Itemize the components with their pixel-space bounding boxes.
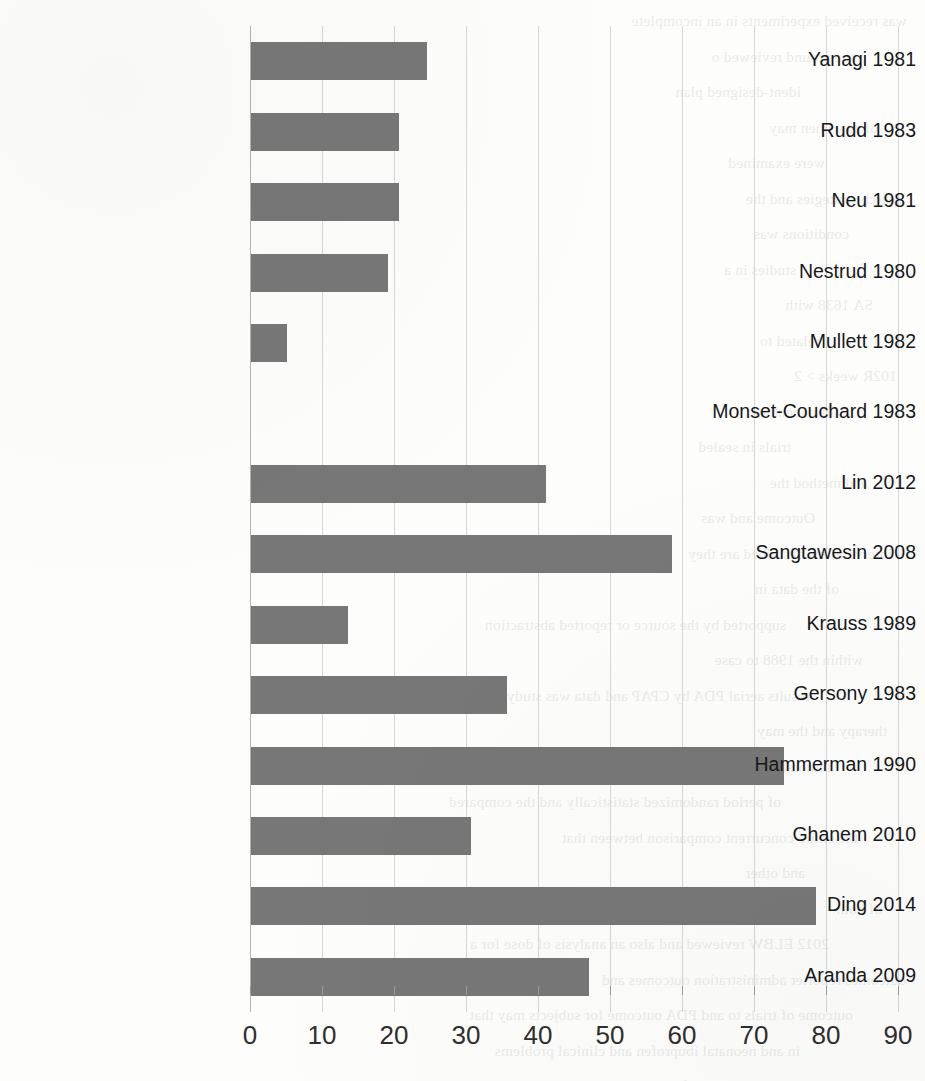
y-axis-label: Krauss 1989 [683,612,925,635]
y-axis-label: Neu 1981 [683,189,925,212]
tickmark-90 [898,986,899,995]
bar [251,324,287,362]
tickmark-0 [250,986,251,995]
x-tick-label: 20 [364,1020,424,1051]
x-tick-label: 50 [580,1020,640,1051]
gridline-0 [250,26,251,1012]
y-axis-label: Gersony 1983 [683,682,925,705]
tickmark-50 [610,986,611,995]
y-axis-label: Hammerman 1990 [683,753,925,776]
gridline-70 [754,26,755,1012]
gridline-50 [610,26,611,1012]
tickmark-80 [826,986,827,995]
gridline-90 [898,26,899,1012]
y-axis-label: Nestrud 1980 [683,260,925,283]
y-axis-label: Mullett 1982 [683,330,925,353]
y-axis-label: Monset-Couchard 1983 [683,400,925,423]
bar [251,817,471,855]
x-tick-label: 90 [868,1020,925,1051]
tickmark-30 [466,986,467,995]
y-axis-label: Lin 2012 [683,471,925,494]
tickmark-20 [394,986,395,995]
tickmark-10 [322,986,323,995]
x-tick-label: 70 [724,1020,784,1051]
x-tick-label: 0 [220,1020,280,1051]
tickmark-40 [538,986,539,995]
gridline-60 [682,26,683,1012]
y-axis-label: Sangtawesin 2008 [683,541,925,564]
bar [251,606,348,644]
gridline-40 [538,26,539,1012]
gridline-20 [394,26,395,1012]
bar [251,254,388,292]
bar-chart: 0102030405060708090 Yanagi 1981Rudd 1983… [0,0,925,1081]
y-axis-label: Ghanem 2010 [683,823,925,846]
x-tick-label: 40 [508,1020,568,1051]
bar [251,676,507,714]
y-axis-label: Aranda 2009 [683,964,925,987]
x-tick-label: 30 [436,1020,496,1051]
bar [251,465,546,503]
bar [251,42,427,80]
gridline-30 [466,26,467,1012]
bar [251,535,672,573]
tickmark-60 [682,986,683,995]
x-tick-label: 10 [292,1020,352,1051]
bar [251,183,399,221]
gridline-80 [826,26,827,1012]
x-tick-label: 60 [652,1020,712,1051]
y-axis-label: Yanagi 1981 [683,48,925,71]
bar [251,113,399,151]
gridline-10 [322,26,323,1012]
plot-area [250,26,898,1012]
y-axis-label: Rudd 1983 [683,119,925,142]
y-axis-label: Ding 2014 [683,893,925,916]
tickmark-70 [754,986,755,995]
x-tick-label: 80 [796,1020,856,1051]
